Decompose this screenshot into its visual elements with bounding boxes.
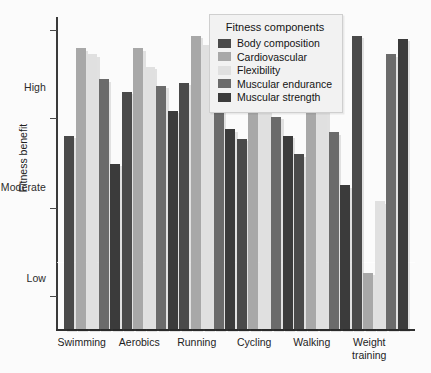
bar-group bbox=[64, 17, 122, 329]
bar[interactable] bbox=[191, 36, 201, 329]
bar[interactable] bbox=[156, 86, 166, 329]
bar-face bbox=[191, 36, 201, 329]
bar[interactable] bbox=[317, 107, 327, 329]
y-axis-tick-low bbox=[50, 296, 57, 297]
legend-item[interactable]: Muscular strength bbox=[218, 91, 332, 103]
bar-face bbox=[64, 136, 74, 329]
legend-swatch-icon bbox=[218, 52, 231, 61]
bar-face bbox=[225, 129, 235, 329]
bar[interactable] bbox=[260, 79, 270, 329]
bar[interactable] bbox=[363, 273, 373, 329]
x-axis-label: Walking bbox=[282, 336, 342, 349]
bar-face bbox=[260, 79, 270, 329]
bar-face bbox=[214, 107, 224, 329]
bar[interactable] bbox=[179, 83, 189, 329]
fitness-benefit-bar-chart: High Moderate Low Fitness benefit Swimmi… bbox=[0, 0, 431, 373]
bar-group bbox=[122, 17, 180, 329]
bar-face bbox=[283, 136, 293, 329]
bar-face bbox=[340, 185, 350, 329]
legend-title: Fitness components bbox=[218, 21, 332, 33]
bar-face bbox=[363, 273, 373, 329]
bar[interactable] bbox=[329, 132, 339, 329]
bar[interactable] bbox=[294, 154, 304, 329]
legend-item-label: Cardiovascular bbox=[237, 51, 307, 63]
bar-face bbox=[145, 67, 155, 329]
bar-face bbox=[317, 107, 327, 329]
bar[interactable] bbox=[375, 201, 385, 329]
bar[interactable] bbox=[168, 111, 178, 329]
legend-item-label: Muscular endurance bbox=[237, 78, 332, 90]
bar-face bbox=[168, 111, 178, 329]
bar[interactable] bbox=[306, 101, 316, 329]
bar-face bbox=[375, 201, 385, 329]
bar[interactable] bbox=[214, 107, 224, 329]
bar[interactable] bbox=[64, 136, 74, 329]
bar-face bbox=[306, 101, 316, 329]
bar[interactable] bbox=[225, 129, 235, 329]
bar[interactable] bbox=[237, 139, 247, 329]
bar[interactable] bbox=[386, 54, 396, 329]
legend-item-label: Muscular strength bbox=[237, 91, 320, 103]
bar-face bbox=[271, 117, 281, 329]
bar-face bbox=[99, 79, 109, 329]
bar[interactable] bbox=[145, 67, 155, 329]
bar-face bbox=[352, 36, 362, 329]
bar-face bbox=[179, 83, 189, 329]
x-axis-label: Cycling bbox=[225, 336, 285, 349]
y-axis-tick-high bbox=[50, 30, 57, 31]
bar[interactable] bbox=[87, 54, 97, 329]
bar-face bbox=[133, 48, 143, 329]
x-axis-label: Swimming bbox=[52, 336, 112, 349]
bar[interactable] bbox=[340, 185, 350, 329]
legend-swatch-icon bbox=[218, 39, 231, 48]
y-axis-tick-lower bbox=[50, 208, 57, 209]
bar-face bbox=[237, 139, 247, 329]
bar[interactable] bbox=[110, 164, 120, 329]
legend-item[interactable]: Body composition bbox=[218, 37, 332, 49]
x-axis-label: Weight training bbox=[340, 336, 400, 361]
bar[interactable] bbox=[398, 39, 408, 329]
y-axis-title: Fitness benefit bbox=[17, 78, 29, 238]
x-axis-label: Aerobics bbox=[110, 336, 170, 349]
bar-face bbox=[122, 92, 132, 329]
legend-item-label: Flexibility bbox=[237, 64, 280, 76]
bar[interactable] bbox=[271, 117, 281, 329]
legend-item[interactable]: Flexibility bbox=[218, 64, 332, 76]
legend-item[interactable]: Muscular endurance bbox=[218, 78, 332, 90]
bar-face bbox=[76, 48, 86, 329]
bar-group bbox=[352, 17, 410, 329]
legend-item-label: Body composition bbox=[237, 37, 320, 49]
bar-face bbox=[398, 39, 408, 329]
bar-face bbox=[386, 54, 396, 329]
bar[interactable] bbox=[99, 79, 109, 329]
y-axis-tick-upper bbox=[50, 118, 57, 119]
bar-face bbox=[329, 132, 339, 329]
legend: Fitness components Body compositionCardi… bbox=[209, 14, 343, 113]
bar[interactable] bbox=[122, 92, 132, 329]
bar-face bbox=[110, 164, 120, 329]
legend-items: Body compositionCardiovascularFlexibilit… bbox=[218, 37, 332, 103]
y-tick-label-low: Low bbox=[0, 272, 46, 284]
legend-item[interactable]: Cardiovascular bbox=[218, 51, 332, 63]
bar-face bbox=[87, 54, 97, 329]
legend-swatch-icon bbox=[218, 79, 231, 88]
bar[interactable] bbox=[352, 36, 362, 329]
bar[interactable] bbox=[283, 136, 293, 329]
legend-swatch-icon bbox=[218, 93, 231, 102]
legend-swatch-icon bbox=[218, 66, 231, 75]
bar-face bbox=[294, 154, 304, 329]
bar-face bbox=[156, 86, 166, 329]
bar[interactable] bbox=[133, 48, 143, 329]
bar[interactable] bbox=[76, 48, 86, 329]
x-axis-label: Running bbox=[167, 336, 227, 349]
